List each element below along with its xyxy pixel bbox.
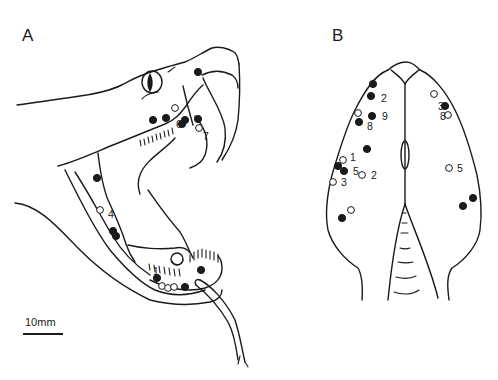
panel-a-point-label: 4 — [108, 208, 114, 220]
panel-b-open-point — [359, 172, 366, 179]
rostral-plate — [391, 70, 419, 84]
panel-b-point-label: 1 — [350, 151, 356, 163]
panel-b-open-point — [330, 179, 337, 186]
panel-a-filled-point — [93, 174, 100, 181]
neck-left — [388, 204, 405, 300]
panel-a-filled-point — [162, 114, 169, 121]
panel-a-open-point — [196, 125, 203, 132]
panel-label-b: B — [332, 26, 343, 45]
panel-b-filled-point — [340, 167, 347, 174]
upper-lip — [202, 71, 238, 88]
panel-b-point-label: 3 — [341, 176, 347, 188]
head-right-outline — [420, 70, 481, 300]
glottis-loop — [128, 245, 193, 258]
panel-a-filled-point — [194, 68, 201, 75]
palate-outline — [138, 138, 175, 194]
panel-a-filled-point — [112, 232, 119, 239]
panel-b-point-label: 9 — [382, 110, 388, 122]
panel-a-open-point — [171, 284, 178, 291]
panel-a-point-label: 1 — [153, 265, 159, 277]
panel-b-filled-point — [459, 202, 466, 209]
palate-outline-2 — [148, 190, 190, 252]
upper-teeth — [140, 128, 173, 146]
neck-scales — [394, 213, 419, 294]
head-left-outline — [327, 70, 388, 300]
scale-bar-label: 10mm — [25, 316, 56, 328]
panel-b-filled-point — [369, 80, 376, 87]
panel-b-filled-point — [355, 118, 362, 125]
panel-a-points: 6741 — [93, 68, 209, 291]
panel-b-filled-point — [368, 112, 375, 119]
figure-canvas: A B — [0, 0, 498, 380]
panel-b-points: 2981532385 — [330, 80, 477, 221]
scale-bar: 10mm — [23, 316, 63, 334]
panel-b-point-label: 8 — [367, 120, 373, 132]
panel-b-filled-point — [363, 145, 370, 152]
tongue-base — [195, 279, 200, 285]
panel-b-filled-point — [334, 162, 341, 169]
panel-b-filled-point — [469, 194, 476, 201]
head-top-outline — [17, 47, 239, 105]
panel-b-point-label: 2 — [371, 169, 377, 181]
panel-a-filled-point — [197, 266, 204, 273]
snout-top — [388, 62, 420, 70]
panel-a-filled-point — [181, 283, 188, 290]
panel-b-point-label: 8 — [440, 110, 446, 122]
neck-right — [405, 204, 438, 298]
tongue-fork — [238, 356, 248, 367]
eye-pupil — [147, 73, 152, 92]
panel-b-open-point — [431, 91, 438, 98]
panel-a-point-label: 6 — [176, 118, 182, 130]
panel-a-point-label: 7 — [203, 130, 209, 142]
panel-b-open-point — [446, 165, 453, 172]
panel-b-filled-point — [338, 214, 345, 221]
panel-a-filled-point — [194, 115, 201, 122]
panel-label-a: A — [22, 26, 34, 45]
panel-b-open-point — [340, 157, 347, 164]
panel-b-filled-point — [367, 92, 374, 99]
panel-b-point-label: 5 — [353, 165, 359, 177]
panel-a-open-point — [97, 207, 104, 214]
panel-b-point-label: 5 — [457, 162, 463, 174]
head-scale-line — [168, 67, 175, 72]
head-scale-line — [110, 85, 122, 90]
lower-teeth — [149, 249, 218, 276]
panel-b-point-label: 2 — [381, 92, 387, 104]
panel-a-open-point — [172, 105, 179, 112]
panel-b-open-point — [348, 207, 355, 214]
panel-b-open-point — [355, 110, 362, 117]
panel-a-filled-point — [149, 116, 156, 123]
tongue-lower — [196, 285, 238, 360]
panel-b-drawing — [327, 62, 481, 300]
